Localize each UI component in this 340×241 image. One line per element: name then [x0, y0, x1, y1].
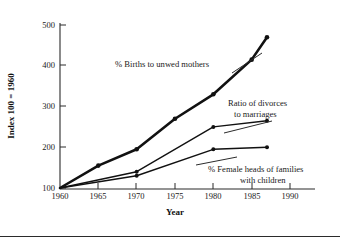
leader-line-unwed — [232, 53, 262, 73]
annotation-divorce-line1: Ratio of divorces — [228, 98, 288, 108]
x-tick-label-1970: 1970 — [128, 191, 145, 201]
y-tick-label-300: 300 — [42, 101, 55, 111]
data-point — [96, 163, 101, 168]
data-point — [173, 116, 178, 121]
annotation-female-heads-line2: with children — [240, 175, 286, 185]
x-tick-label-1980: 1980 — [205, 191, 222, 201]
data-point — [265, 35, 270, 40]
figure-footer-rule — [0, 236, 340, 237]
data-point — [211, 125, 215, 129]
x-tick-label-1985: 1985 — [244, 191, 261, 201]
y-axis-ticks — [60, 25, 66, 188]
annotation-unwed-mothers: % Births to unwed mothers — [115, 59, 210, 69]
data-point — [211, 92, 216, 97]
x-tick-label-1975: 1975 — [167, 191, 184, 201]
x-tick-label-1965: 1965 — [90, 191, 107, 201]
data-point — [134, 147, 139, 152]
x-tick-label-1960: 1960 — [52, 191, 69, 201]
line-chart-canvas: 500 400 300 200 100 1960 1965 1970 1975 … — [0, 0, 340, 241]
y-tick-label-500: 500 — [42, 20, 55, 30]
series-line-2 — [60, 121, 267, 188]
data-point — [135, 174, 139, 178]
y-tick-label-400: 400 — [42, 60, 55, 70]
y-axis-title: Index 100 = 1960 — [6, 73, 16, 139]
x-tick-label-1990: 1990 — [282, 191, 299, 201]
data-point — [211, 147, 215, 151]
x-axis-title: Year — [166, 207, 184, 217]
y-tick-label-200: 200 — [42, 142, 55, 152]
data-point — [265, 145, 269, 149]
chart-figure: 500 400 300 200 100 1960 1965 1970 1975 … — [0, 0, 340, 241]
annotation-female-heads-line1: % Female heads of families — [208, 164, 304, 174]
annotation-divorce-line2: to marriages — [234, 109, 277, 119]
data-point — [135, 170, 139, 174]
